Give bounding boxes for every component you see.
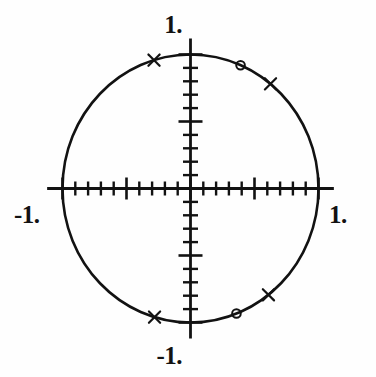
x-max-label: 1. [329,201,347,228]
y-min-label: -1. [156,342,182,369]
unit-circle-plot: 1. -1. -1. 1. [0,0,376,377]
y-max-label: 1. [164,11,182,38]
plot-canvas: 1. -1. -1. 1. [0,0,376,377]
x-min-label: -1. [14,201,40,228]
